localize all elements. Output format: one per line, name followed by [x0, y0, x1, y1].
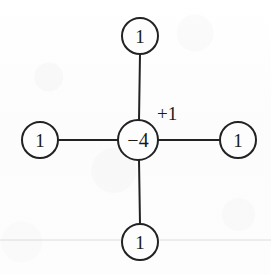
- edge-north: [139, 54, 140, 120]
- node-south-label: 1: [135, 232, 145, 253]
- edge-south: [139, 160, 140, 224]
- stencil-diagram: 1 1 1 1 −4 +1: [0, 0, 271, 275]
- node-center-label: −4: [127, 129, 148, 151]
- plus-one-annotation: +1: [157, 103, 177, 124]
- node-north-label: 1: [135, 26, 145, 47]
- node-east-label: 1: [233, 130, 243, 151]
- node-west-label: 1: [35, 130, 45, 151]
- figure-canvas: 1 1 1 1 −4 +1: [0, 0, 271, 275]
